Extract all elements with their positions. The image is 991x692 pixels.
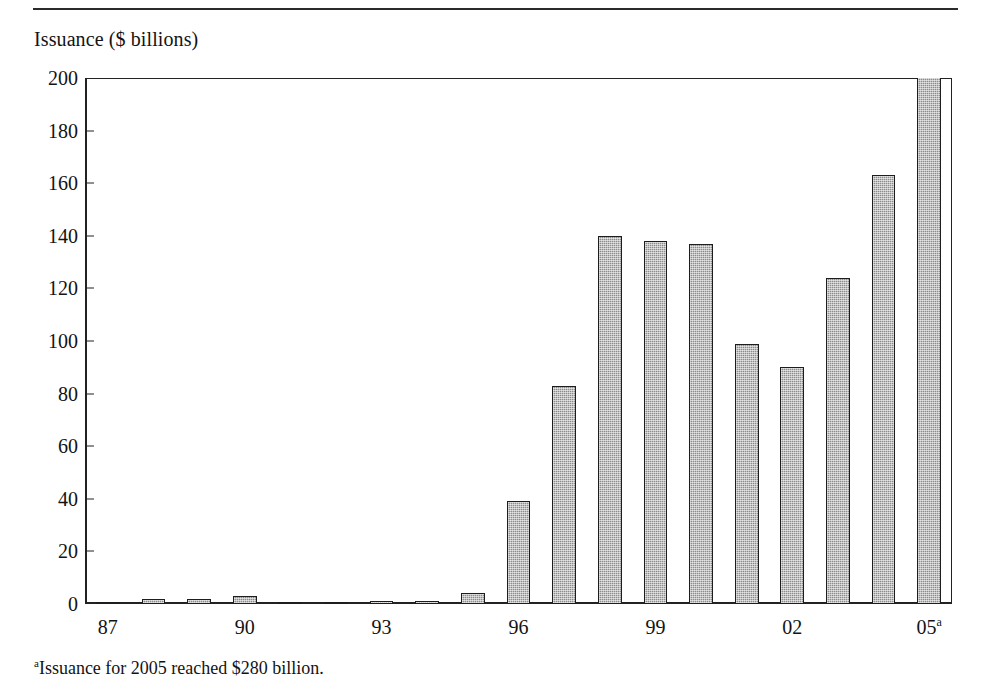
bar bbox=[644, 241, 668, 604]
y-axis-tick-label: 20 bbox=[18, 540, 78, 563]
bar bbox=[917, 78, 941, 604]
plot-area bbox=[85, 78, 952, 604]
y-axis-tick-label: 160 bbox=[18, 172, 78, 195]
top-divider-rule bbox=[33, 8, 958, 10]
bar bbox=[324, 602, 348, 604]
bar bbox=[187, 599, 211, 604]
bar bbox=[780, 367, 804, 604]
x-axis-tick-label: 90 bbox=[235, 616, 255, 639]
bar bbox=[370, 601, 394, 604]
y-axis-tick-mark bbox=[85, 183, 94, 184]
footnote-text: Issuance for 2005 reached $280 billion. bbox=[39, 658, 324, 678]
y-axis-tick-label: 60 bbox=[18, 435, 78, 458]
y-axis-tick-label: 180 bbox=[18, 119, 78, 142]
y-axis-tick-label: 200 bbox=[18, 67, 78, 90]
bar bbox=[96, 602, 120, 604]
x-axis-tick-label: 93 bbox=[372, 616, 392, 639]
y-axis-tick-labels: 200180160140120100806040200 bbox=[8, 0, 78, 692]
y-axis-tick-mark bbox=[85, 446, 94, 447]
bar bbox=[142, 599, 166, 604]
y-axis-tick-label: 140 bbox=[18, 224, 78, 247]
y-axis-tick-mark bbox=[85, 288, 94, 289]
x-axis-tick-label: 02 bbox=[782, 616, 802, 639]
y-axis-tick-mark bbox=[85, 393, 94, 394]
footnote: aIssuance for 2005 reached $280 billion. bbox=[34, 658, 324, 679]
y-axis-tick-label: 0 bbox=[18, 593, 78, 616]
y-axis-tick-mark bbox=[85, 498, 94, 499]
x-axis-tick-superscript: a bbox=[937, 615, 942, 629]
bar bbox=[461, 593, 485, 604]
y-axis-tick-label: 80 bbox=[18, 382, 78, 405]
y-axis-tick-label: 40 bbox=[18, 487, 78, 510]
chart-page: Issuance ($ billions) 200180160140120100… bbox=[0, 0, 991, 692]
bar bbox=[689, 244, 713, 604]
y-axis-tick-label: 120 bbox=[18, 277, 78, 300]
x-axis-tick-label: 87 bbox=[98, 616, 118, 639]
bar bbox=[233, 596, 257, 604]
y-axis-tick-mark bbox=[85, 551, 94, 552]
bar bbox=[415, 601, 439, 604]
bar bbox=[552, 386, 576, 604]
bar bbox=[872, 175, 896, 604]
y-axis-tick-mark bbox=[85, 130, 94, 131]
bar bbox=[507, 501, 531, 604]
x-axis-tick-label: 99 bbox=[645, 616, 665, 639]
x-axis-tick-label: 05a bbox=[917, 616, 942, 639]
y-axis-tick-mark bbox=[85, 341, 94, 342]
bar bbox=[735, 344, 759, 604]
bar bbox=[598, 236, 622, 604]
bar bbox=[826, 278, 850, 604]
y-axis-tick-mark bbox=[85, 235, 94, 236]
y-axis-tick-label: 100 bbox=[18, 330, 78, 353]
x-axis-tick-label: 96 bbox=[509, 616, 529, 639]
bar bbox=[278, 602, 302, 604]
